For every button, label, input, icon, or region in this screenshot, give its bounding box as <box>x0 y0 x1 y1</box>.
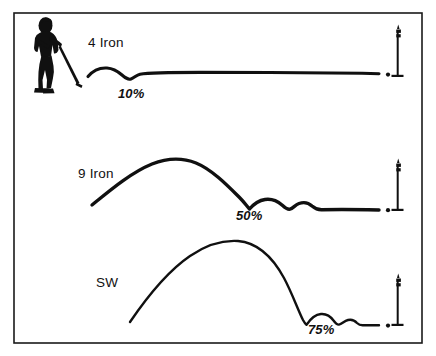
diagram-canvas: 4 Iron 10% 9 Iron 50% SW 75% <box>0 0 436 356</box>
flagstick-icon-four-iron <box>392 25 404 78</box>
trajectory-path-four-iron <box>88 68 379 79</box>
carry-label-nine-iron: 50% <box>236 208 263 223</box>
flagstick-icon-nine-iron <box>392 159 404 212</box>
club-label-sand-wedge: SW <box>96 275 118 290</box>
carry-label-sand-wedge: 75% <box>308 322 335 337</box>
club-label-nine-iron: 9 Iron <box>78 166 114 181</box>
golf-trajectory-diagram: 4 Iron 10% 9 Iron 50% SW 75% <box>0 0 436 356</box>
carry-label-four-iron: 10% <box>118 86 145 101</box>
trajectory-nine-iron: 9 Iron 50% <box>78 159 390 223</box>
trajectory-path-nine-iron <box>92 159 379 210</box>
club-label-four-iron: 4 Iron <box>88 35 124 50</box>
trajectory-four-iron: 4 Iron 10% <box>88 35 390 101</box>
flagstick-icon-sand-wedge <box>392 274 404 327</box>
trajectory-path-sand-wedge <box>130 241 379 325</box>
trajectory-sand-wedge: SW 75% <box>96 241 390 337</box>
ball-marker-nine-iron <box>386 208 390 212</box>
ball-marker-sand-wedge <box>386 324 390 328</box>
golfer-silhouette-icon <box>34 17 83 93</box>
ball-marker-four-iron <box>386 73 390 77</box>
